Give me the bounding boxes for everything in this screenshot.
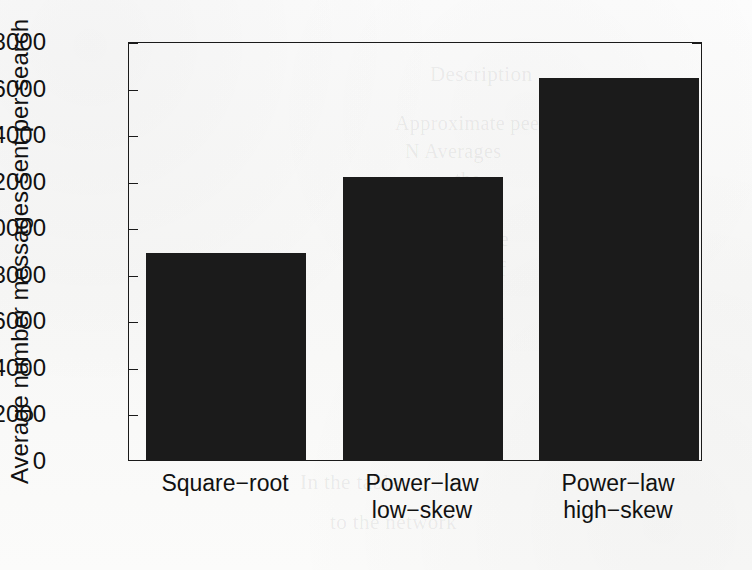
y-tick-label: 0 [33, 449, 46, 473]
y-tick-mark [129, 43, 138, 44]
y-tick-label: 2000 [0, 402, 46, 426]
y-tick-label: 14000 [0, 123, 46, 147]
bar [146, 253, 306, 460]
y-tick-label: 18000 [0, 30, 46, 54]
x-tick-label: Power−lawhigh−skew [498, 470, 738, 523]
x-tick-label-line: Power−law [498, 470, 738, 497]
y-tick-label: 16000 [0, 77, 46, 101]
y-tick-label: 8000 [0, 263, 46, 287]
y-axis-title: Average number messages sent per search [0, 42, 40, 461]
plot-area [128, 42, 702, 461]
y-tick-mark [129, 415, 138, 416]
y-tick-label: 4000 [0, 356, 46, 380]
y-tick-mark [129, 276, 138, 277]
y-tick-mark [129, 322, 138, 323]
x-tick-label-line: high−skew [498, 497, 738, 524]
y-tick-label: 10000 [0, 216, 46, 240]
y-tick-mark [129, 229, 138, 230]
y-tick-mark [129, 136, 138, 137]
y-tick-mark [129, 90, 138, 91]
y-tick-mark-right [692, 43, 701, 44]
bar [539, 78, 699, 460]
y-tick-label: 12000 [0, 170, 46, 194]
y-tick-label: 6000 [0, 309, 46, 333]
y-tick-mark [129, 183, 138, 184]
bar [343, 177, 503, 460]
y-tick-mark [129, 369, 138, 370]
bar-chart-figure: Average number messages sent per search … [0, 0, 752, 570]
